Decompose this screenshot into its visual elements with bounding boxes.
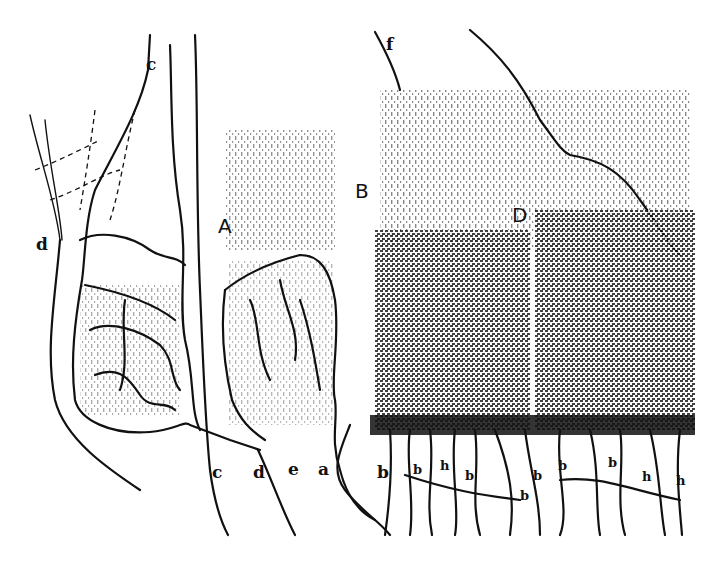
label-region-b: B — [355, 179, 369, 203]
label-bottom-b7: b — [608, 455, 617, 470]
region-a-arborization — [223, 130, 375, 520]
label-d-left: d — [36, 234, 48, 254]
label-c-top: c — [146, 54, 156, 74]
label-bottom-h3: h — [676, 473, 686, 488]
label-bottom-a: a — [318, 459, 329, 479]
label-bottom-b4: b — [520, 488, 529, 503]
label-bottom-b5: b — [533, 468, 542, 483]
dense-arborization-bd — [370, 90, 695, 435]
label-bottom-c: c — [212, 462, 222, 482]
neuron-illustration: c d A B D f c d e a b b h b b b b b h h — [0, 0, 715, 562]
label-bottom-h1: h — [440, 458, 450, 473]
label-f: f — [386, 34, 395, 54]
label-bottom-e: e — [288, 459, 299, 479]
illustration-canvas: c d A B D f c d e a b b h b b b b b h h — [0, 0, 715, 562]
vertical-fiber — [195, 35, 228, 535]
label-bottom-b2: b — [413, 462, 422, 477]
left-arborization — [30, 35, 260, 490]
label-region-a: A — [218, 214, 232, 238]
label-bottom-b6: b — [558, 458, 567, 473]
label-bottom-d: d — [253, 462, 265, 482]
label-bottom-h2: h — [642, 469, 652, 484]
label-region-d: D — [512, 203, 527, 227]
label-bottom-b3: b — [465, 468, 474, 483]
label-bottom-b1: b — [377, 462, 389, 482]
